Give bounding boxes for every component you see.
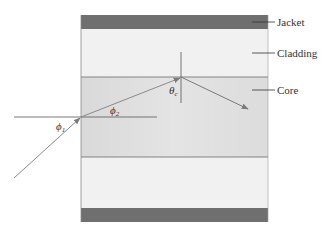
angle-phi1-label: ϕ1 bbox=[56, 120, 65, 134]
jacket-label: Jacket bbox=[277, 16, 304, 28]
incident-ray bbox=[14, 118, 80, 178]
cladding-label: Cladding bbox=[277, 47, 318, 59]
cladding-bottom bbox=[81, 157, 268, 208]
cladding-top bbox=[81, 29, 268, 77]
jacket-top bbox=[81, 15, 268, 29]
fiber-cross-section bbox=[81, 15, 268, 222]
optical-fiber-diagram: ϕ1 ϕ2 θc Jacket Cladding Core bbox=[0, 0, 326, 231]
jacket-bottom bbox=[81, 208, 268, 222]
core-label: Core bbox=[277, 84, 299, 96]
